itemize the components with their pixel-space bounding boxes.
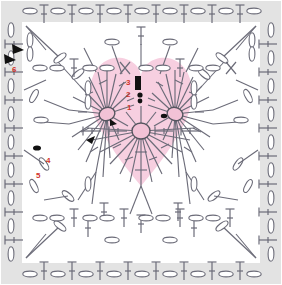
start-arrow-round-4 [33, 145, 41, 150]
chart-canvas [0, 0, 282, 285]
start-arrow-right-lobe [161, 114, 167, 118]
start-arrow-round-3 [135, 76, 141, 90]
crochet-chart-diagram: 1 2 3 4 5 6 [0, 0, 282, 285]
